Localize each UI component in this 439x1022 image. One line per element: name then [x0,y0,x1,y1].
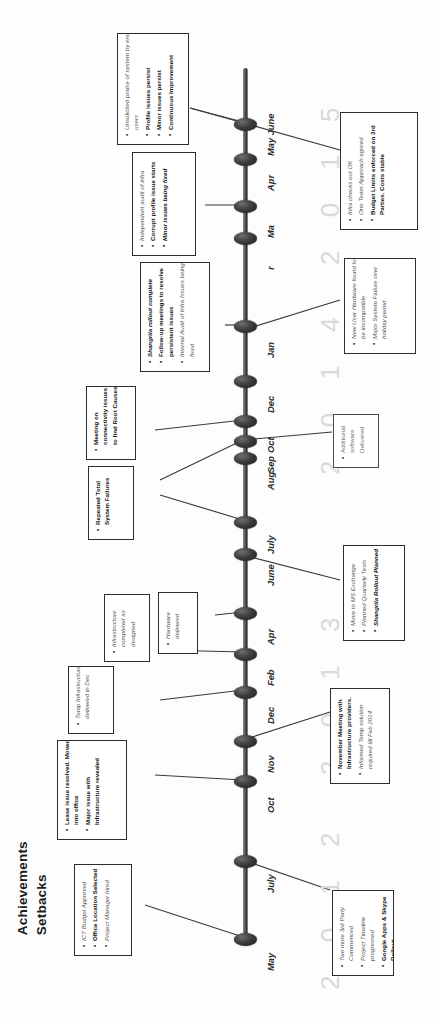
callout-list-item: Additional software Delivered [338,414,366,453]
callout-list: Hardware delivered [163,592,182,646]
timeline-month-label: Ma [266,225,276,238]
callout-infra-checks-2015[interactable]: Infra checks out OKOne Team Approach agr… [340,112,418,230]
callout-list-item: Internal Audit of Infra Issues being fix… [177,262,196,357]
callout-list: Lease issue resolved. Moved into officeM… [62,740,101,832]
callout-list-item: Budget Limits enforced on 3rd Parties. C… [368,112,387,215]
callout-list: Independent audit of infraCorrupt profil… [137,152,169,248]
callout-list-item: Informed Temp solution required till Feb… [356,688,375,769]
timeline-node[interactable] [234,686,257,699]
callout-list: Additional software Delivered [338,414,366,460]
callout-list-item: Infra checks out OK [345,112,354,215]
callout-hardware-failure-2014[interactable]: New User Hardware found to be incompatib… [344,258,416,354]
diagram-canvas: Achievements Setbacks May JuneAprMarJanD… [0,0,439,1022]
callout-list-item: Minor issues being fixed [160,152,169,241]
callout-list-item: Minor issues persist [154,33,163,130]
callout-list-item: Major System Failure over holiday period [370,258,389,339]
timeline-node[interactable] [234,153,257,166]
callout-list-item: Temp Infrastructure delivered in Dec [73,666,92,719]
callout-list: November Meeting with Infrastructure pro… [335,688,374,776]
callout-move-to-ms-exchange[interactable]: Move to MS ExchangePlanned Quarterly Tes… [343,545,405,641]
callout-list-item: One Team Approach agreed [356,112,365,215]
page-title-line1: Achievements [13,795,32,935]
callout-list-item: Office Location Selected [90,864,99,941]
callout-ict-budget[interactable]: ICT Budget ApprovedOffice Location Selec… [74,864,132,956]
callout-list-item: Hardware delivered [163,592,182,639]
callout-list-item: Independent audit of infra [137,152,146,241]
timeline-month-label: May June [266,114,276,156]
callout-list: Shangrila rollout completeFollow-up meet… [145,262,196,364]
callout-list-item: Continuous Improvement [166,33,175,130]
timeline-month-label: Oct [266,438,276,454]
callout-infra-complete[interactable]: Infrastructure completed as designed [104,594,150,662]
page-title: Achievements Setbacks [13,795,51,935]
callout-list-item: Planned Quarterly Tests [359,545,368,626]
callout-list-item: Meeting on connectivity issues to find R… [91,386,119,445]
timeline-month-label: July [266,874,276,893]
callout-list-item: Infrastructure completed as designed [109,594,137,647]
callout-audit-2015[interactable]: Independent audit of infraCorrupt profil… [132,152,196,256]
timeline-month-label: Feb [266,669,276,686]
callout-praise-2015[interactable]: Unsolicited praise of system by end user… [117,33,189,145]
callout-list-item: ICT Budget Approved [79,864,88,941]
callout-lease-issue[interactable]: Lease issue resolved. Moved into officeM… [57,740,127,840]
callout-list-item: Shangrila rollout complete [145,262,154,357]
callout-list-item: Two more 3rd Party Commenced [337,890,356,961]
callout-list-item: Shangrila Rollout Planned [371,545,380,626]
callout-list-item: Lease issue resolved. Moved into office [62,740,81,825]
callout-list: Temp Infrastructure delivered in Dec [73,666,92,726]
callout-list: Meeting on connectivity issues to find R… [91,386,119,452]
timeline-month-label: Dec [266,707,276,724]
callout-meeting-root-causes[interactable]: Meeting on connectivity issues to find R… [86,386,136,460]
callout-list-item: Move to MS Exchange [348,545,357,626]
timeline-month-label: Dec [266,396,276,413]
callout-list: New User Hardware found to be incompatib… [349,258,388,346]
callout-shangrila-rollout[interactable]: Shangrila rollout completeFollow-up meet… [140,262,210,372]
callout-list-item: Follow-up meetings to resolve persistent… [156,262,175,357]
callout-hardware-delivered[interactable]: Hardware delivered [158,592,198,654]
callout-list-item: Project Timeline progressed [358,890,377,961]
callout-list-item: Profile issues persist [143,33,152,130]
page-title-line2: Setbacks [32,795,51,935]
callout-list-item: Unsolicited praise of system by end user… [122,33,141,130]
timeline-node[interactable] [234,548,257,561]
timeline-node[interactable] [234,375,257,388]
timeline-month-label: Aug [266,472,276,490]
timeline-node[interactable] [234,435,257,448]
callout-list: Infra checks out OKOne Team Approach agr… [345,112,387,222]
timeline-month-label: Apr [266,175,276,191]
timeline-node[interactable] [234,232,257,245]
timeline-node[interactable] [234,775,257,788]
callout-additional-software[interactable]: Additional software Delivered [333,414,379,468]
timeline-node[interactable] [234,118,257,131]
callout-third-party-commenced[interactable]: Two more 3rd Party CommencedProject Time… [332,890,394,976]
timeline-node[interactable] [234,415,257,428]
timeline-node[interactable] [234,320,257,333]
timeline-node[interactable] [234,607,257,620]
timeline-node[interactable] [234,200,257,213]
timeline-month-label: May [266,953,276,971]
timeline-month-label: Sep [266,456,276,473]
timeline-node[interactable] [234,648,257,661]
callout-list-item: Google Apps & Skype Rollout [379,890,394,961]
timeline-month-label: July [266,535,276,554]
timeline-month-label: r [266,266,276,270]
timeline-month-label: June [266,564,276,586]
timeline-node[interactable] [234,516,257,529]
callout-list-item: New User Hardware found to be incompatib… [349,258,368,339]
callout-november-meeting[interactable]: November Meeting with Infrastructure pro… [330,688,390,784]
callout-list: Move to MS ExchangePlanned Quarterly Tes… [348,545,380,633]
callout-list: ICT Budget ApprovedOffice Location Selec… [79,864,111,948]
timeline-node[interactable] [234,735,257,748]
callout-list: Unsolicited praise of system by end user… [122,33,175,137]
callout-list-item: Major issue with Infrastructure revealed [83,740,102,825]
callout-list-item: Corrupt profile issue starts [148,152,157,241]
callout-repeated-failures[interactable]: Repeated Total System Failures [88,466,134,540]
callout-list-item: Project Manager hired [102,864,111,941]
timeline-month-label: Nov [266,755,276,773]
timeline-node[interactable] [234,855,257,868]
callout-list-item: November Meeting with Infrastructure pro… [335,688,354,769]
callout-temp-infra-dec[interactable]: Temp Infrastructure delivered in Dec [68,666,114,734]
timeline-node[interactable] [234,933,257,946]
timeline-node[interactable] [234,452,257,465]
callout-list: Infrastructure completed as designed [109,594,137,654]
